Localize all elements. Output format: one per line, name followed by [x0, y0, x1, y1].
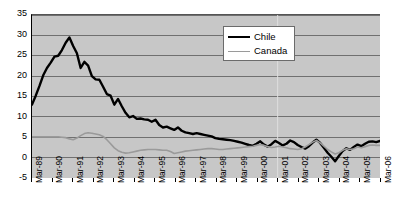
- x-tick-mark: [257, 178, 258, 182]
- x-tick-label: Mar-01: [281, 156, 290, 183]
- x-tick-mark: [31, 178, 32, 182]
- x-tick-label: Mar-03: [322, 156, 331, 183]
- x-axis: Mar-89Mar-90Mar-91Mar-92Mar-93Mar-94Mar-…: [0, 0, 395, 218]
- x-tick-mark: [298, 178, 299, 182]
- x-tick-mark: [113, 178, 114, 182]
- x-tick-label: Mar-06: [384, 156, 393, 183]
- legend-label-canada: Canada: [254, 46, 287, 56]
- line-chart: 35302520151050-5 Mar-89Mar-90Mar-91Mar-9…: [0, 0, 395, 218]
- x-tick-label: Mar-00: [260, 156, 269, 183]
- x-tick-label: Mar-90: [55, 156, 64, 183]
- x-tick-mark: [154, 178, 155, 182]
- x-tick-label: Mar-96: [178, 156, 187, 183]
- x-tick-label: Mar-92: [96, 156, 105, 183]
- x-tick-label: Mar-05: [363, 156, 372, 183]
- x-tick-label: Mar-97: [199, 156, 208, 183]
- x-tick-mark: [277, 178, 278, 182]
- x-tick-mark: [318, 178, 319, 182]
- x-tick-label: Mar-89: [35, 156, 44, 183]
- x-tick-label: Mar-95: [158, 156, 167, 183]
- legend-item-canada: Canada: [228, 44, 290, 58]
- x-tick-mark: [195, 178, 196, 182]
- x-tick-mark: [216, 178, 217, 182]
- x-tick-mark: [52, 178, 53, 182]
- x-tick-label: Mar-94: [137, 156, 146, 183]
- legend-swatch-canada: [228, 51, 250, 52]
- x-tick-mark: [93, 178, 94, 182]
- legend-label-chile: Chile: [254, 32, 276, 42]
- x-tick-label: Mar-91: [76, 156, 85, 183]
- x-tick-label: Mar-02: [301, 156, 310, 183]
- x-tick-mark: [380, 178, 381, 182]
- x-tick-label: Mar-93: [117, 156, 126, 183]
- x-tick-mark: [359, 178, 360, 182]
- x-tick-mark: [175, 178, 176, 182]
- x-tick-mark: [339, 178, 340, 182]
- x-tick-mark: [236, 178, 237, 182]
- x-tick-label: Mar-04: [342, 156, 351, 183]
- legend-item-chile: Chile: [228, 30, 290, 44]
- x-tick-mark: [134, 178, 135, 182]
- x-tick-mark: [72, 178, 73, 182]
- x-tick-label: Mar-98: [219, 156, 228, 183]
- chart-legend: Chile Canada: [223, 26, 295, 61]
- x-tick-label: Mar-99: [240, 156, 249, 183]
- legend-swatch-chile: [228, 36, 250, 38]
